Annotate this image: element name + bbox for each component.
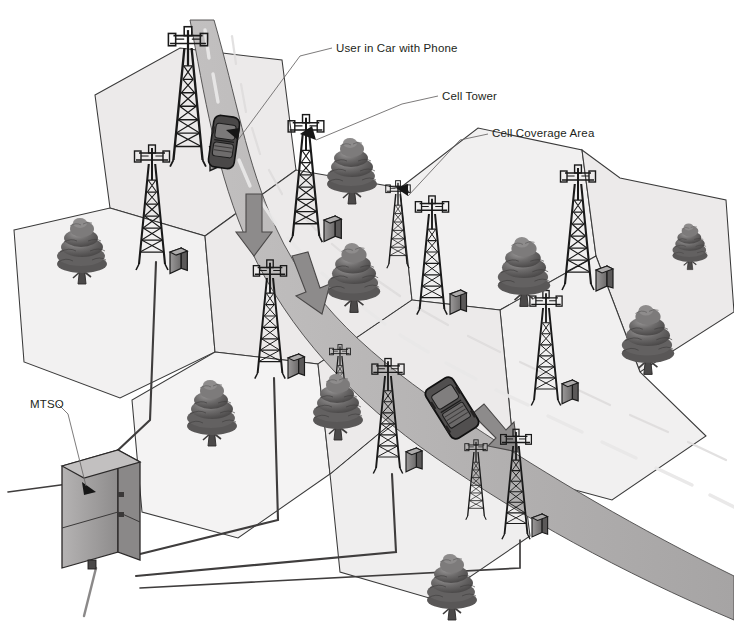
label-cell-coverage-area: Cell Coverage Area [492, 127, 594, 139]
cell-coverage-area [132, 352, 330, 538]
cable-link [84, 568, 96, 616]
label-mtso: MTSO [30, 398, 64, 410]
cellular-network-illustration [0, 0, 734, 636]
diagram-canvas: User in Car with Phone Cell Tower Cell C… [0, 0, 734, 636]
label-user-in-car: User in Car with Phone [336, 42, 458, 54]
mtso-building [62, 448, 140, 572]
label-cell-tower: Cell Tower [442, 90, 497, 102]
leader-line [316, 96, 438, 140]
